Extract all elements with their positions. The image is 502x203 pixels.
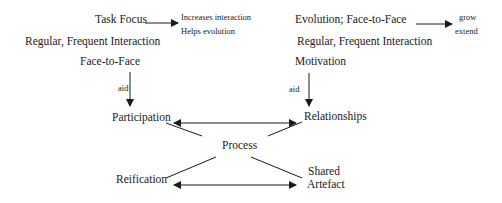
relationships-node: Relationships (304, 111, 367, 123)
participation-process-line (166, 123, 202, 136)
shared-label: Shared (307, 166, 341, 178)
shared-artefact-node: Shared Artefact (307, 166, 341, 190)
relationships-process-line (268, 122, 302, 136)
left-regular-interaction-label: Regular, Frequent Interaction (25, 36, 160, 48)
grow-label: grow (459, 13, 476, 22)
process-node: Process (222, 140, 257, 152)
right-regular-interaction-label: Regular, Frequent Interaction (297, 36, 432, 48)
artefact-label: Artefact (307, 179, 341, 191)
artefact-process-line (251, 157, 302, 178)
reification-node: Reification (116, 174, 167, 186)
right-aid-label: aid (289, 85, 299, 94)
helps-evolution-label: Helps evolution (181, 27, 235, 36)
motivation-label: Motivation (295, 56, 346, 68)
diagram-edges (0, 0, 502, 203)
reification-process-line (166, 157, 216, 178)
face-to-face-label: Face-to-Face (80, 56, 140, 68)
participation-node: Participation (112, 112, 171, 124)
task-focus-label: Task Focus (95, 14, 147, 26)
increases-interaction-label: Increases interaction (181, 13, 251, 22)
extend-label: extend (455, 27, 478, 36)
left-aid-label: aid (118, 84, 128, 93)
evolution-face-to-face-label: Evolution; Face-to-Face (295, 14, 406, 26)
